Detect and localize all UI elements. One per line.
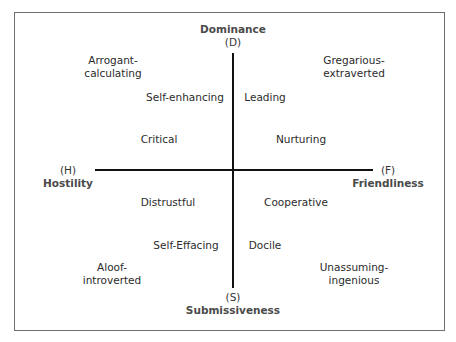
label-line: Gregarious-	[323, 54, 385, 67]
pole-code: (D)	[200, 36, 266, 49]
label-line: calculating	[84, 67, 141, 80]
label-critical: Critical	[141, 133, 178, 146]
label-line: Arrogant-	[84, 54, 141, 67]
label-docile: Docile	[249, 239, 282, 252]
pole-name: Hostility	[43, 177, 93, 190]
pole-name: Friendliness	[352, 177, 424, 190]
pole-hostility: (H) Hostility	[43, 164, 93, 190]
label-self-enhancing: Self-enhancing	[146, 91, 224, 104]
pole-code: (S)	[186, 291, 280, 304]
label-unassuming-ingenious: Unassuming- ingenious	[320, 261, 389, 287]
label-nurturing: Nurturing	[276, 133, 326, 146]
pole-submissiveness: (S) Submissiveness	[186, 291, 280, 317]
pole-name: Dominance	[200, 23, 266, 36]
pole-friendliness: (F) Friendliness	[352, 164, 424, 190]
label-distrustful: Distrustful	[141, 196, 195, 209]
label-line: introverted	[83, 274, 141, 287]
pole-name: Submissiveness	[186, 304, 280, 317]
horizontal-axis-line	[95, 169, 373, 171]
pole-code: (F)	[352, 164, 424, 177]
label-cooperative: Cooperative	[264, 196, 328, 209]
pole-code: (H)	[43, 164, 93, 177]
label-line: extraverted	[323, 67, 385, 80]
label-line: Aloof-	[83, 261, 141, 274]
label-arrogant-calculating: Arrogant- calculating	[84, 54, 141, 80]
label-line: ingenious	[320, 274, 389, 287]
label-gregarious-extraverted: Gregarious- extraverted	[323, 54, 385, 80]
pole-dominance: Dominance (D)	[200, 23, 266, 49]
label-self-effacing: Self-Effacing	[153, 239, 218, 252]
label-line: Unassuming-	[320, 261, 389, 274]
label-leading: Leading	[244, 91, 285, 104]
label-aloof-introverted: Aloof- introverted	[83, 261, 141, 287]
